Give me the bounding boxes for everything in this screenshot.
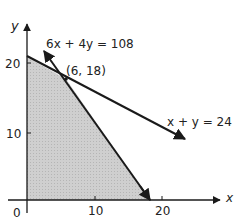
point-label-6-18: (6, 18): [66, 64, 106, 78]
line-label-6x-4y-108: 6x + 4y = 108: [46, 37, 134, 51]
x-tick-label-10: 10: [88, 204, 103, 218]
origin-label: 0: [13, 206, 21, 220]
x-axis-label: x: [225, 191, 234, 205]
y-tick-label-20: 20: [5, 57, 20, 71]
feasible-region: [27, 57, 150, 200]
line-label-x-y-24: x + y = 24: [167, 115, 232, 129]
y-axis-label: y: [10, 18, 19, 33]
y-tick-label-10: 10: [6, 127, 21, 141]
linear-programming-graph: y x 0 10 20 10 20 6x + 4y = 108 x + y = …: [0, 0, 234, 221]
x-tick-label-20: 20: [155, 204, 170, 218]
